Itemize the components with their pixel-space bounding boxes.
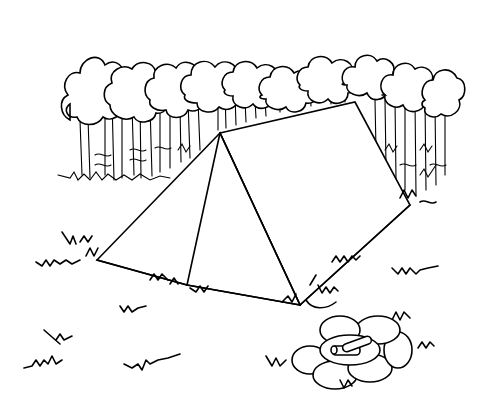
fire-pit (292, 316, 412, 389)
drawing (0, 0, 486, 412)
coloring-page-canvas: Line-art coloring page of a pup tent in … (0, 0, 486, 412)
tree-canopies (61, 55, 464, 124)
tent (97, 102, 410, 305)
